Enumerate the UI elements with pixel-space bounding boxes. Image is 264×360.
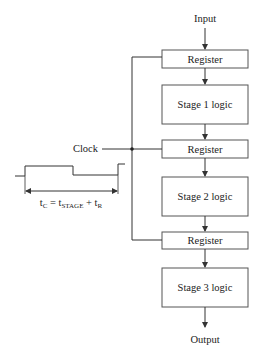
pipeline-diagram: Input Register Stage 1 logic Register St… <box>0 0 264 360</box>
clock-waveform <box>15 164 125 176</box>
clock-bus <box>102 57 162 240</box>
register-3-label: Register <box>188 235 223 246</box>
register-2-label: Register <box>188 144 223 155</box>
stage-1-logic: Stage 1 logic <box>162 85 248 124</box>
register-2: Register <box>162 140 248 158</box>
output-label: Output <box>190 334 219 345</box>
stage-2-label: Stage 2 logic <box>178 191 233 202</box>
input-label: Input <box>194 13 216 24</box>
register-1-label: Register <box>188 54 223 65</box>
stage-2-logic: Stage 2 logic <box>162 177 248 216</box>
clock-junction-dot <box>130 147 134 151</box>
stage-3-label: Stage 3 logic <box>178 282 233 293</box>
register-3: Register <box>162 232 248 249</box>
stage-3-logic: Stage 3 logic <box>162 268 248 307</box>
cycle-time-formula: tC = tSTAGE + tR <box>40 197 103 210</box>
register-1: Register <box>162 50 248 68</box>
stage-1-label: Stage 1 logic <box>178 99 233 110</box>
clock-label: Clock <box>73 143 99 154</box>
